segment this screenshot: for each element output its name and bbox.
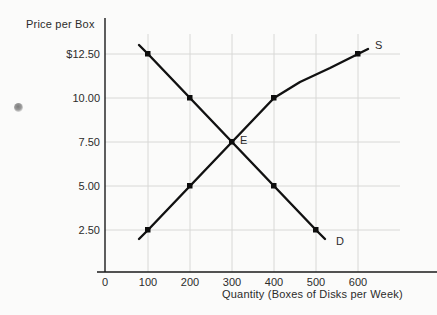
chart-canvas: Price per Box $12.50 10.00 7.50 5.00 2.5… [0,0,437,315]
demand-point-400 [271,183,277,189]
equilibrium-point [229,139,235,145]
supply-point-200 [187,183,193,189]
demand-point-100 [145,51,151,57]
x-axis-title: Quantity (Boxes of Disks per Week) [222,288,403,300]
supply-curve [139,49,368,239]
y-tick-group: $12.50 10.00 7.50 5.00 2.50 [0,0,100,315]
scan-smudge-dot [14,103,23,112]
supply-curve-label: S [375,39,382,51]
y-tick-label-7.50: 7.50 [14,136,100,148]
demand-point-200 [187,95,193,101]
x-tick-label-600: 600 [338,276,378,288]
y-tick-label-12.50: $12.50 [14,48,100,60]
x-tick-label-0: 0 [85,276,125,288]
x-tick-label-200: 200 [170,276,210,288]
supply-point-600 [355,51,361,57]
x-tick-label-500: 500 [296,276,336,288]
x-tick-label-400: 400 [254,276,294,288]
supply-point-400 [271,95,277,101]
x-tick-label-100: 100 [128,276,168,288]
equilibrium-point-label: E [240,134,247,146]
demand-point-500 [313,227,319,233]
y-tick-label-5.00: 5.00 [14,180,100,192]
y-tick-label-2.50: 2.50 [14,224,100,236]
x-tick-label-300: 300 [212,276,252,288]
demand-curve-label: D [336,235,344,247]
y-tick-label-10.00: 10.00 [14,92,100,104]
supply-point-100 [145,227,151,233]
